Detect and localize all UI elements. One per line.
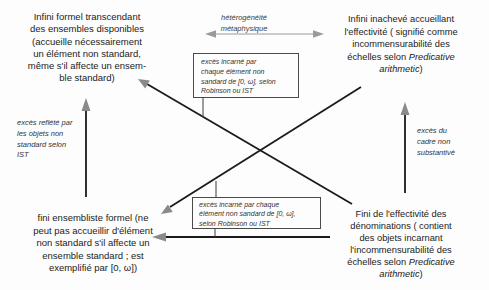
concept-text: ): [420, 64, 423, 74]
concept-unfinished-infinite: Infini inachevé accueillant l'effectivit…: [326, 13, 476, 76]
diagram-canvas: Infini formel transcendant des ensembles…: [0, 0, 489, 290]
up-arrowhead-icon: [82, 98, 91, 111]
arrow-unfinished-infinite-to-formal-finite: [161, 87, 361, 214]
box-excess-incarnated-top: excès incarné par chaque élément non san…: [193, 53, 299, 98]
arrow-right-vertical-up: [401, 102, 410, 193]
up-arrowhead-icon: [401, 102, 410, 115]
concept-formal-set-finite: fini ensembliste formel (ne peut pas acc…: [0, 212, 186, 275]
concept-text: ): [420, 269, 423, 279]
label-metaphysical-heterogeneity: hétérogénéité métaphysique: [202, 13, 286, 34]
box-excess-incarnated-bottom: excès incarné par chaque élément non san…: [192, 197, 321, 229]
label-excess-unsubstantivized-frame: excès du cadre non substantivé: [417, 126, 477, 158]
label-excess-reflected-ist: excès reflété par les objets non standar…: [17, 118, 92, 161]
right-arrowhead-icon: [313, 30, 324, 38]
concept-finite-of-effectivity: Fini de l'effectivité des dénominations …: [326, 208, 476, 280]
concept-transcendent-formal-infinite: Infini formel transcendant des ensembles…: [2, 11, 172, 85]
